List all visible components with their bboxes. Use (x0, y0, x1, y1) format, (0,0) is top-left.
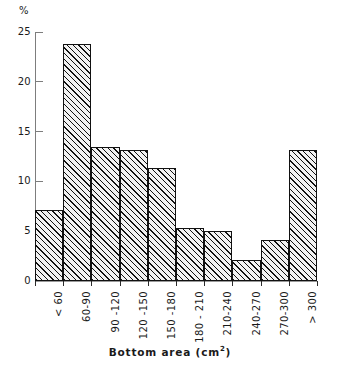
x-tick-mark (289, 281, 290, 286)
bar (35, 210, 63, 281)
x-tick-mark (148, 281, 149, 286)
x-tick-mark (176, 281, 177, 286)
x-tick-label: > 300 (307, 291, 318, 324)
x-tick-label: < 60 (53, 291, 64, 317)
bar (176, 228, 204, 281)
plot-area (35, 20, 317, 282)
x-tick-mark (91, 281, 92, 286)
y-tick-label: 5 (24, 224, 31, 237)
bar (63, 44, 91, 281)
x-tick-mark (63, 281, 64, 286)
x-tick-label: 120 -150 (138, 291, 149, 339)
x-tick-label: 240-270 (251, 291, 262, 336)
bar (261, 240, 289, 281)
histogram-chart: % 0510152025 < 6060-9090 -120120 -150150… (0, 0, 340, 374)
y-tick-label: 25 (18, 25, 31, 38)
bar (289, 150, 317, 281)
x-tick-label: 90 -120 (110, 291, 121, 332)
x-tick-mark (120, 281, 121, 286)
x-tick-mark (35, 281, 36, 286)
bar (204, 231, 232, 281)
y-axis-unit-label: % (19, 5, 29, 16)
x-tick-label: 180 - 210 (194, 291, 205, 343)
x-axis-title-close: ) (226, 346, 232, 358)
bar (120, 150, 148, 281)
y-tick-label: 0 (24, 274, 31, 287)
bar (91, 147, 119, 281)
bar (148, 168, 176, 281)
x-tick-mark (232, 281, 233, 286)
y-tick-label: 10 (18, 174, 31, 187)
x-tick-label: 270-300 (279, 291, 290, 336)
x-tick-mark (204, 281, 205, 286)
y-tick-label: 20 (18, 75, 31, 88)
x-axis-title-main: Bottom area (cm (109, 346, 220, 358)
x-axis-title: Bottom area (cm2) (0, 345, 340, 358)
x-tick-label: 210-240 (222, 291, 233, 336)
x-tick-mark (317, 281, 318, 286)
x-tick-label: 150 -180 (166, 291, 177, 339)
x-tick-label: 60-90 (81, 291, 92, 322)
bar (232, 260, 260, 281)
y-tick-label: 15 (18, 125, 31, 138)
x-tick-mark (261, 281, 262, 286)
